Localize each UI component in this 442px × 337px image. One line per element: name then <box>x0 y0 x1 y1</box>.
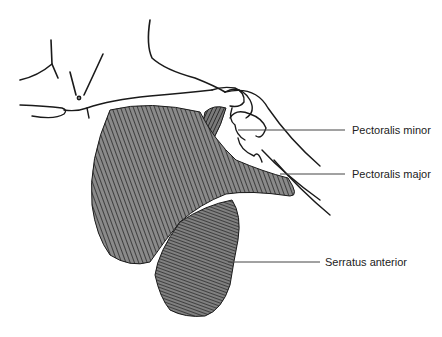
leader-lines <box>228 130 345 262</box>
neck-outline <box>20 20 225 100</box>
label-pectoralis-minor: Pectoralis minor <box>352 124 431 136</box>
label-serratus-anterior: Serratus anterior <box>325 256 407 268</box>
label-pectoralis-major: Pectoralis major <box>352 168 431 180</box>
anatomy-diagram: Pectoralis minor Pectoralis major Serrat… <box>0 0 442 337</box>
